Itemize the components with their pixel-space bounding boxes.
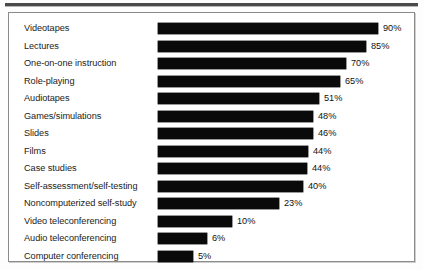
- chart-frame: Videotapes90%Lectures85%One-on-one instr…: [8, 12, 415, 262]
- bar-fill: [158, 93, 319, 104]
- bar-fill: [158, 198, 279, 209]
- bar-value-label: 70%: [351, 55, 369, 72]
- bar-fill: [158, 23, 378, 34]
- bar-value-label: 85%: [371, 38, 389, 55]
- bar-row: Computer conferencing5%: [9, 248, 416, 265]
- bar-row: Games/simulations48%: [9, 108, 416, 125]
- bar-fill: [158, 251, 193, 262]
- bar-fill: [158, 146, 308, 157]
- bar-value-label: 48%: [318, 108, 336, 125]
- bar-category-label: Case studies: [24, 160, 77, 177]
- bar-value-label: 23%: [284, 195, 302, 212]
- bar-value-label: 44%: [313, 143, 331, 160]
- bar-category-label: Computer conferencing: [24, 248, 118, 265]
- bar-category-label: Videotapes: [24, 20, 69, 37]
- bar-row: Audiotapes51%: [9, 90, 416, 107]
- figure-container: Videotapes90%Lectures85%One-on-one instr…: [0, 0, 423, 270]
- bar-fill: [158, 216, 232, 227]
- bar-chart-rows: Videotapes90%Lectures85%One-on-one instr…: [9, 13, 416, 263]
- bar-category-label: Noncomputerized self-study: [24, 195, 137, 212]
- bar-fill: [158, 181, 303, 192]
- bar-value-label: 90%: [383, 20, 401, 37]
- bar-fill: [158, 233, 207, 244]
- bar-category-label: Audio teleconferencing: [24, 230, 116, 247]
- bar-row: Lectures85%: [9, 38, 416, 55]
- bar-value-label: 44%: [312, 160, 330, 177]
- bar-row: Videotapes90%: [9, 20, 416, 37]
- bar-category-label: Lectures: [24, 38, 59, 55]
- bar-category-label: One-on-one instruction: [24, 55, 116, 72]
- bar-value-label: 40%: [308, 178, 326, 195]
- bar-value-label: 10%: [237, 213, 255, 230]
- page-header-rule-shadow: [5, 6, 418, 7]
- bar-fill: [158, 58, 346, 69]
- bar-row: One-on-one instruction70%: [9, 55, 416, 72]
- bar-row: Audio teleconferencing6%: [9, 230, 416, 247]
- bar-value-label: 6%: [212, 230, 225, 247]
- bar-row: Noncomputerized self-study23%: [9, 195, 416, 212]
- bar-value-label: 51%: [324, 90, 342, 107]
- bar-category-label: Films: [24, 143, 46, 160]
- bar-fill: [158, 41, 366, 52]
- bar-row: Video teleconferencing10%: [9, 213, 416, 230]
- bar-category-label: Self-assessment/self-testing: [24, 178, 138, 195]
- bar-row: Self-assessment/self-testing40%: [9, 178, 416, 195]
- bar-fill: [158, 76, 340, 87]
- bar-category-label: Games/simulations: [24, 108, 101, 125]
- bar-fill: [158, 128, 313, 139]
- bar-value-label: 65%: [345, 73, 363, 90]
- bar-category-label: Slides: [24, 125, 49, 142]
- bar-row: Slides46%: [9, 125, 416, 142]
- bar-fill: [158, 163, 307, 174]
- bar-row: Role-playing65%: [9, 73, 416, 90]
- bar-row: Films44%: [9, 143, 416, 160]
- bar-row: Case studies44%: [9, 160, 416, 177]
- bar-fill: [158, 111, 313, 122]
- bar-category-label: Video teleconferencing: [24, 213, 116, 230]
- bar-value-label: 46%: [318, 125, 336, 142]
- bar-category-label: Role-playing: [24, 73, 74, 90]
- bar-value-label: 5%: [198, 248, 211, 265]
- bar-category-label: Audiotapes: [24, 90, 69, 107]
